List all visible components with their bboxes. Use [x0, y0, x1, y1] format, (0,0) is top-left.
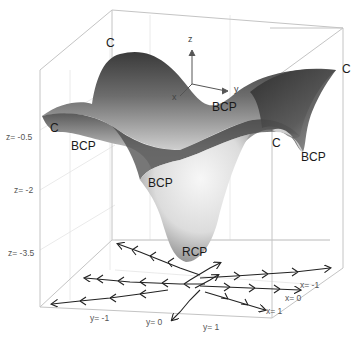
- axis-y-label: y: [234, 84, 239, 94]
- z-tick-label: z= -3.5: [8, 248, 34, 258]
- z-tick-label: z= -2: [14, 185, 33, 195]
- critical-point-label-c: C: [272, 136, 281, 150]
- critical-point-label-c: C: [50, 121, 59, 135]
- critical-point-label-bcp: BCP: [71, 139, 96, 153]
- critical-point-label-rcp: RCP: [182, 245, 207, 259]
- axis-x-label: x: [172, 92, 177, 102]
- critical-point-label-c: C: [106, 36, 115, 50]
- axis-triad: [180, 50, 228, 96]
- z-tick-label: z= -0.5: [6, 132, 32, 142]
- axis-z-label: z: [188, 34, 193, 44]
- x-tick-label: x= -1: [300, 280, 319, 290]
- surface-plot-figure: z= -0.5 z= -2 z= -3.5 y= -1 y= 0 y= 1 x=…: [0, 0, 356, 340]
- x-tick-label: x= 1: [266, 306, 282, 316]
- critical-point-label-bcp: BCP: [212, 100, 237, 114]
- critical-point-label-bcp: BCP: [301, 150, 326, 164]
- critical-point-label-bcp: BCP: [148, 176, 173, 190]
- y-tick-label: y= 1: [203, 322, 219, 332]
- x-tick-label: x= 0: [285, 293, 301, 303]
- y-tick-label: y= -1: [90, 313, 109, 323]
- y-tick-label: y= 0: [146, 317, 162, 327]
- critical-point-label-c: C: [342, 62, 351, 76]
